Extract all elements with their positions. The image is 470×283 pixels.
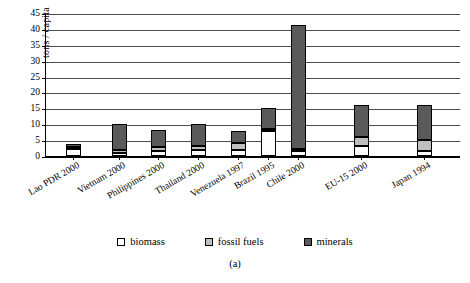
y-axis-tick-label: 20 (14, 88, 40, 98)
figure-caption: (a) (0, 258, 470, 269)
bar-chile-2000[interactable] (291, 25, 306, 156)
bar-segment-minerals (151, 130, 166, 147)
bar-brazil-1995[interactable] (261, 108, 276, 156)
bars-layer (46, 14, 460, 156)
bar-segment-fossil (354, 137, 369, 147)
legend-label: biomass (130, 236, 164, 247)
x-axis-label: EU-15 2000 (307, 160, 369, 202)
bar-lao-pdr-2000[interactable] (66, 144, 81, 156)
y-axis-tick-label: 5 (14, 136, 40, 146)
y-axis-tick-label: 15 (14, 104, 40, 114)
y-axis-tick-mark (42, 157, 46, 158)
bar-segment-minerals (191, 124, 206, 146)
bar-vietnam-2000[interactable] (112, 124, 127, 156)
y-axis-tick-label: 10 (14, 120, 40, 130)
legend-item-fossil-fuels[interactable]: fossil fuels (205, 236, 264, 247)
bar-thailand-2000[interactable] (191, 124, 206, 156)
bar-segment-minerals (417, 105, 432, 140)
figure-panel-a: tons / capita 051015202530354045 Lao PDR… (0, 0, 470, 283)
x-axis-label: Japan 1994 (370, 160, 432, 202)
legend: biomassfossil fuelsminerals (0, 236, 470, 247)
y-axis-tick-label: 25 (14, 73, 40, 83)
y-axis-tick-label: 40 (14, 25, 40, 35)
y-axis-tick-label: 45 (14, 9, 40, 19)
legend-label: fossil fuels (218, 236, 264, 247)
legend-item-minerals[interactable]: minerals (304, 236, 353, 247)
x-axis-labels: Lao PDR 2000Vietnam 2000Philippines 2000… (0, 160, 470, 218)
legend-swatch-icon (117, 238, 125, 246)
y-axis-tick-label: 30 (14, 57, 40, 67)
legend-label: minerals (317, 236, 353, 247)
bar-philippines-2000[interactable] (151, 130, 166, 156)
bar-segment-minerals (291, 25, 306, 149)
y-axis-tick-label: 35 (14, 41, 40, 51)
legend-swatch-icon (304, 238, 312, 246)
bar-segment-biomass (261, 131, 276, 156)
bar-japan-1994[interactable] (417, 105, 432, 156)
bar-eu-15-2000[interactable] (354, 105, 369, 156)
bar-venezuela-1997[interactable] (231, 131, 246, 156)
bar-segment-minerals (261, 108, 276, 129)
bar-segment-minerals (354, 105, 369, 137)
plot-area: tons / capita 051015202530354045 (45, 14, 460, 157)
bar-segment-biomass (66, 149, 81, 156)
bar-segment-minerals (112, 124, 127, 149)
gridline (46, 157, 460, 158)
legend-item-biomass[interactable]: biomass (117, 236, 164, 247)
bar-segment-biomass (354, 146, 369, 156)
bar-segment-minerals (231, 131, 246, 144)
bar-segment-fossil (417, 140, 432, 151)
legend-swatch-icon (205, 238, 213, 246)
